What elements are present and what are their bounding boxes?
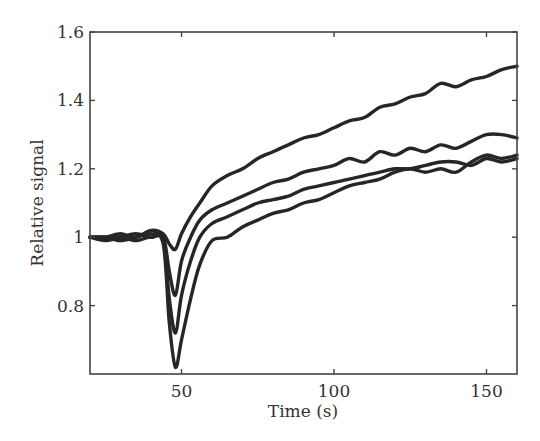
y-tick-label: 1.2 (57, 159, 84, 179)
x-axis-label: Time (s) (268, 401, 338, 421)
y-tick-label: 1 (73, 227, 84, 247)
x-tick-label: 100 (318, 381, 350, 401)
x-tick-label: 50 (171, 381, 193, 401)
series-curve-4 (90, 155, 517, 367)
series-curve-3 (90, 158, 517, 333)
series-curve-1 (90, 66, 517, 249)
y-tick-label: 1.6 (57, 22, 84, 42)
data-curves (90, 66, 517, 367)
line-chart: 50100150 0.811.21.41.6 Time (s) Relative… (0, 0, 540, 441)
y-axis-ticks: 0.811.21.41.6 (57, 22, 517, 316)
series-curve-2 (90, 134, 517, 295)
y-axis-label: Relative signal (27, 139, 47, 266)
x-tick-label: 150 (470, 381, 502, 401)
y-tick-label: 0.8 (57, 296, 84, 316)
y-tick-label: 1.4 (57, 90, 84, 110)
